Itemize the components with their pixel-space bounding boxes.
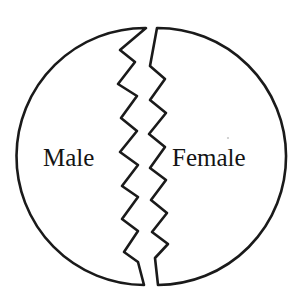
- female-label: Female: [172, 144, 246, 171]
- male-label: Male: [43, 144, 94, 171]
- broken-circle-figure: Male Female: [0, 0, 301, 307]
- scan-speck-artifact: [227, 137, 229, 139]
- broken-circle-diagram: Male Female: [0, 0, 301, 307]
